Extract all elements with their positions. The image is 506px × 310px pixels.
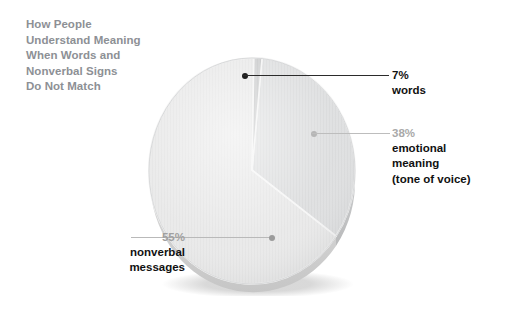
title-line-1: How People [26, 17, 226, 33]
leader-line-words [243, 75, 389, 76]
callout-nonverbal-messages: 55% nonverbal messages [40, 230, 185, 276]
callout-emotional-percent: 38% [392, 126, 471, 141]
callout-nonverbal-percent: 55% [40, 230, 185, 245]
leader-stroke-words [243, 75, 389, 76]
callout-words-percent: 7% [392, 68, 426, 83]
callout-emotional-meaning: 38% emotional meaning (tone of voice) [392, 126, 471, 187]
callout-words: 7% words [392, 68, 426, 98]
chart-canvas: How People Understand Meaning When Words… [0, 0, 506, 310]
callout-emotional-line-1: emotional [392, 141, 471, 156]
leader-dot-nonverbal [269, 235, 275, 241]
callout-nonverbal-line-1: nonverbal [40, 245, 185, 260]
callout-words-line-1: words [392, 83, 426, 98]
callout-emotional-line-3: (tone of voice) [392, 172, 471, 187]
leader-stroke-emotional [312, 133, 390, 134]
callout-emotional-line-2: meaning [392, 156, 471, 171]
leader-line-emotional [312, 133, 390, 134]
callout-nonverbal-line-2: messages [40, 260, 185, 275]
